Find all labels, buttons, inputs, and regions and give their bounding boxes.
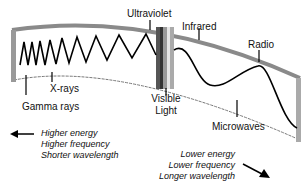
frame-right-edge bbox=[296, 78, 301, 142]
label-gamma-rays: Gamma rays bbox=[22, 101, 79, 112]
wave-high-frequency bbox=[20, 34, 156, 65]
wave-low-frequency bbox=[174, 48, 297, 128]
note-shorter-wavelength: Shorter wavelength bbox=[41, 150, 119, 161]
visible-light-strip bbox=[156, 27, 174, 89]
note-lower-energy: Lower energy bbox=[150, 149, 235, 160]
note-higher-energy: Higher energy bbox=[41, 128, 98, 139]
arrow-left-icon bbox=[10, 130, 34, 138]
label-microwaves: Microwaves bbox=[212, 121, 265, 132]
note-lower-frequency: Lower frequency bbox=[150, 160, 235, 171]
note-longer-wavelength: Longer wavelength bbox=[150, 171, 235, 182]
label-visible: Visible bbox=[149, 93, 183, 104]
label-infrared: Infrared bbox=[182, 21, 216, 32]
note-higher-frequency: Higher frequency bbox=[41, 139, 110, 150]
frame-left-edge bbox=[11, 30, 16, 82]
label-xrays: X-rays bbox=[50, 83, 79, 94]
label-ultraviolet: Ultraviolet bbox=[127, 8, 171, 19]
label-radio: Radio bbox=[248, 39, 274, 50]
label-light: Light bbox=[149, 105, 183, 116]
arrow-down-right-icon bbox=[243, 164, 270, 178]
